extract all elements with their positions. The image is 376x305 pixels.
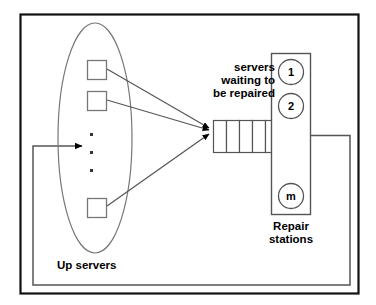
queueing-diagram: 1 2 m serverswaiting tobe repaired Repai… xyxy=(0,0,376,305)
queue-label-line-1: servers xyxy=(234,61,275,73)
repair-stations-label: Repairstations xyxy=(258,220,324,246)
flow-arrow-server-2 xyxy=(107,100,209,130)
queue-cell-3 xyxy=(240,121,253,153)
up-servers-ellipse xyxy=(58,23,132,253)
waiting-queue xyxy=(214,121,279,153)
continuation-dot-1 xyxy=(90,133,93,136)
up-server-box-2 xyxy=(88,92,107,111)
up-server-box-3 xyxy=(88,199,107,218)
flow-arrow-server-3 xyxy=(107,134,209,206)
continuation-dot-3 xyxy=(90,169,93,172)
queue-cell-4 xyxy=(253,121,266,153)
queue-cell-1 xyxy=(214,121,227,153)
repair-station-label-2: 2 xyxy=(288,100,294,112)
up-server-box-1 xyxy=(88,61,107,80)
continuation-dot-2 xyxy=(90,151,93,154)
repair-label-line-2: stations xyxy=(269,233,313,245)
repair-station-label-1: 1 xyxy=(288,66,294,78)
queue-label-line-3: be repaired xyxy=(213,87,275,99)
repair-label-line-1: Repair xyxy=(273,220,309,232)
queue-label: serverswaiting tobe repaired xyxy=(213,61,275,100)
repair-station-label-m: m xyxy=(286,190,296,202)
up-servers-label: Up servers xyxy=(57,259,116,272)
flow-arrow-server-1 xyxy=(107,69,209,128)
queue-label-line-2: waiting to xyxy=(221,74,275,86)
queue-cell-2 xyxy=(227,121,240,153)
